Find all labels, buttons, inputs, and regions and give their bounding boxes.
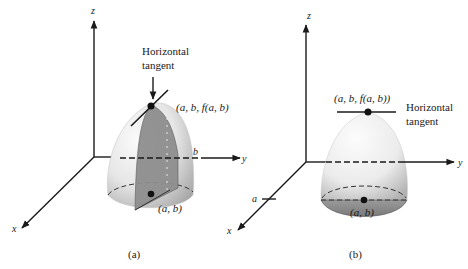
figure-b: z x y a (a, b, f(a, b)) Horizontal tange… [226, 10, 463, 261]
annotation-line-2: tangent [142, 59, 174, 71]
surface-dome [321, 112, 408, 200]
base-point-label: (a, b) [158, 202, 182, 215]
y-axis-label: y [241, 153, 247, 164]
top-point [148, 103, 155, 110]
x-axis-label: x [11, 223, 17, 234]
top-point-label: (a, b, f(a, b)) [334, 92, 391, 105]
x-axis [238, 162, 306, 230]
y-axis-label: y [457, 157, 463, 168]
base-point [361, 197, 368, 204]
diagram-canvas: z x y b Horizontal tangent (a, b, f(a, b… [0, 0, 468, 269]
z-axis-label: z [306, 10, 311, 21]
annotation-line-2: tangent [406, 115, 438, 127]
caption-b: (b) [349, 248, 362, 261]
annotation-line-1: Horizontal [406, 101, 453, 113]
x-axis-label: x [226, 225, 232, 236]
top-point [365, 109, 372, 116]
annotation-line-1: Horizontal [142, 45, 189, 57]
base-point-label: (a, b) [350, 206, 374, 219]
top-point-label: (a, b, f(a, b) [176, 101, 229, 114]
x-axis [22, 157, 94, 228]
base-point [148, 191, 155, 198]
tick-a-label: a [252, 193, 257, 204]
caption-a: (a) [128, 248, 141, 261]
figure-a: z x y b Horizontal tangent (a, b, f(a, b… [11, 5, 247, 261]
z-axis-label: z [90, 5, 95, 16]
tick-b-label: b [193, 146, 198, 157]
